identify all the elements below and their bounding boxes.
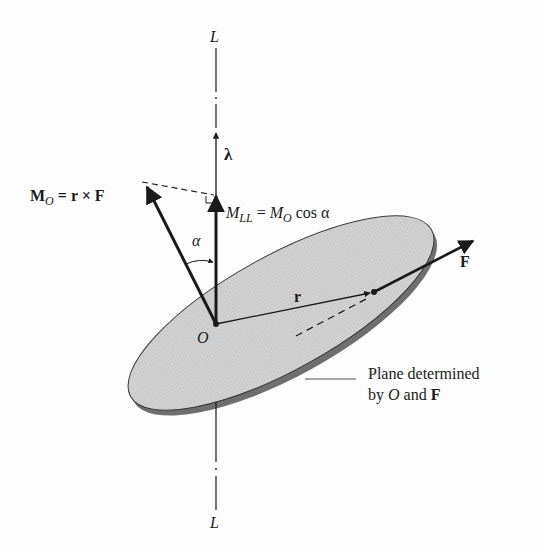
svg-text:MLL = MO cos α: MLL = MO cos α — [225, 204, 330, 225]
mll-eq: = — [253, 204, 270, 221]
F-label: F — [460, 253, 470, 270]
mo-rhs: = r × F — [54, 187, 105, 204]
mo-subscript: O — [45, 194, 54, 208]
axis-label-bottom: L — [209, 514, 219, 531]
plane-caption-line1: Plane determined — [368, 365, 480, 382]
axis-label-top: L — [209, 28, 219, 45]
moment-MLL-equation: MLL = MO cos α — [225, 204, 330, 225]
plane-caption: Plane determined by O and F — [368, 365, 480, 404]
plane-caption-line2: by O and F — [368, 386, 441, 404]
r-label: r — [294, 288, 301, 305]
axis-line-lower — [215, 402, 217, 510]
force-point — [371, 289, 377, 295]
mll-rhs-subscript: O — [283, 211, 292, 225]
mll-rhs-tail: cos α — [292, 204, 330, 221]
diagram-svg: L L λ MO = r × F MLL = MO cos α α O r F … — [0, 0, 542, 552]
origin-point — [213, 321, 219, 327]
moment-vector-MO — [147, 187, 216, 324]
moment-MO-equation: MO = r × F — [30, 187, 105, 208]
svg-text:MO = r × F: MO = r × F — [30, 187, 105, 208]
lambda-label: λ — [224, 145, 233, 164]
moment-about-axis-diagram: L L λ MO = r × F MLL = MO cos α α O r F … — [0, 0, 542, 552]
right-angle-marker — [206, 196, 214, 203]
mll-subscript: LL — [238, 211, 253, 225]
angle-label: α — [192, 232, 201, 249]
projection-dashed-line — [142, 182, 214, 195]
angle-arc — [186, 260, 213, 264]
origin-label: O — [197, 329, 209, 346]
axis-line-upper — [215, 48, 217, 128]
mo-symbol: M — [30, 187, 45, 204]
